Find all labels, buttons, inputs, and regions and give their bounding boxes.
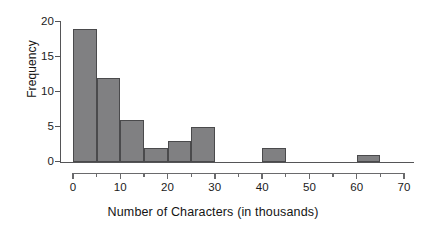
y-axis-tick — [55, 126, 60, 127]
x-axis-tick — [214, 173, 215, 180]
x-axis-line — [60, 162, 414, 163]
y-axis-tick — [55, 56, 60, 57]
x-axis-tick-label: 0 — [53, 182, 93, 194]
x-axis-tick-label: 60 — [337, 182, 377, 194]
x-axis-tick-label: 10 — [100, 182, 140, 194]
x-axis-tick — [403, 173, 404, 180]
x-axis-minor-tick — [96, 173, 97, 177]
histogram-bar — [168, 141, 192, 162]
y-axis-tick-label: 0 — [14, 156, 54, 168]
x-axis-minor-tick — [332, 173, 333, 177]
histogram-bar — [191, 127, 215, 162]
x-axis-minor-tick — [143, 173, 144, 177]
y-axis-line — [60, 21, 61, 163]
x-axis-tick — [261, 173, 262, 180]
x-axis-tick — [72, 173, 73, 180]
x-axis-minor-tick — [285, 173, 286, 177]
y-axis-tick — [55, 161, 60, 162]
plot-area: 05101520 010203040506070 Frequency Numbe… — [0, 0, 426, 232]
x-axis-tick-label: 30 — [195, 182, 235, 194]
y-axis-tick — [55, 21, 60, 22]
y-axis-title: Frequency — [25, 9, 39, 129]
x-axis-tick-label: 50 — [289, 182, 329, 194]
x-axis-tick — [167, 173, 168, 180]
x-axis-minor-tick — [191, 173, 192, 177]
x-axis-tick-label: 70 — [384, 182, 424, 194]
x-axis-tick-label: 20 — [148, 182, 188, 194]
histogram-bar — [144, 148, 168, 162]
histogram-bar — [97, 78, 121, 162]
x-axis-title: Number of Characters (in thousands) — [0, 205, 426, 219]
y-axis-tick — [55, 91, 60, 92]
x-axis-tick — [120, 173, 121, 180]
x-axis-minor-tick — [238, 173, 239, 177]
x-axis-tick — [356, 173, 357, 180]
histogram-bar — [357, 155, 381, 162]
histogram-bar — [120, 120, 144, 162]
x-axis-tick-label: 40 — [242, 182, 282, 194]
histogram-bar — [73, 29, 97, 162]
histogram-bar — [262, 148, 286, 162]
x-axis-minor-tick — [380, 173, 381, 177]
histogram-figure: 05101520 010203040506070 Frequency Numbe… — [0, 0, 426, 232]
x-axis-tick — [309, 173, 310, 180]
